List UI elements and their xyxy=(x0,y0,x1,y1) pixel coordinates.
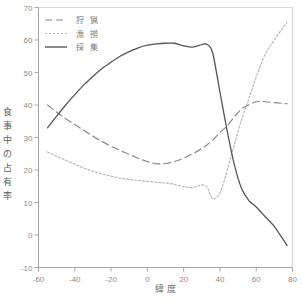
x-tick-label: 20 xyxy=(179,275,188,284)
y-axis-ticks: -10010203040506070 xyxy=(21,4,39,273)
y-axis-title-char: 事 xyxy=(3,120,12,131)
y-tick-label: 0 xyxy=(28,231,33,240)
y-tick-label: 40 xyxy=(24,101,33,110)
y-axis-title-char: 中 xyxy=(3,134,12,145)
x-tick-label: -20 xyxy=(105,275,117,284)
x-axis-ticks: -60-40-20020406080 xyxy=(33,268,298,284)
x-tick-label: -40 xyxy=(69,275,81,284)
chart-legend: 狩 猟漁 撈採 集 xyxy=(45,15,100,52)
x-tick-label: 80 xyxy=(288,275,297,284)
legend-label-3: 採 集 xyxy=(76,42,100,52)
chart-page: -10010203040506070 -60-40-20020406080 狩 … xyxy=(0,0,301,302)
x-axis-title: 緯 度 xyxy=(155,283,176,294)
x-tick-label: -60 xyxy=(33,275,45,284)
x-tick-label: 60 xyxy=(252,275,261,284)
legend-label-2: 漁 撈 xyxy=(76,29,100,39)
y-axis-title-char: 占 xyxy=(3,162,12,173)
series-line-1 xyxy=(48,101,287,163)
y-tick-label: 10 xyxy=(24,199,33,208)
series-line-3 xyxy=(48,43,287,245)
x-tick-label: 0 xyxy=(145,275,150,284)
subsistence-latitude-line-chart: -10010203040506070 -60-40-20020406080 狩 … xyxy=(0,0,301,302)
y-tick-label: -10 xyxy=(21,264,33,273)
y-tick-label: 60 xyxy=(24,36,33,45)
data-series-layer xyxy=(48,22,287,245)
y-tick-label: 70 xyxy=(24,4,33,13)
y-axis-title-char: 有 xyxy=(3,176,12,187)
y-tick-label: 50 xyxy=(24,69,33,78)
x-tick-label: 40 xyxy=(215,275,224,284)
y-tick-label: 30 xyxy=(24,134,33,143)
legend-label-1: 狩 猟 xyxy=(76,15,100,25)
y-tick-label: 20 xyxy=(24,166,33,175)
y-axis-title-char: 食 xyxy=(3,106,12,117)
x-axis-title-text: 緯 度 xyxy=(155,283,176,294)
y-axis-title: 食事中の占有率 xyxy=(3,106,12,201)
y-axis-title-char: 率 xyxy=(3,190,12,201)
y-axis-title-char: の xyxy=(3,149,12,159)
